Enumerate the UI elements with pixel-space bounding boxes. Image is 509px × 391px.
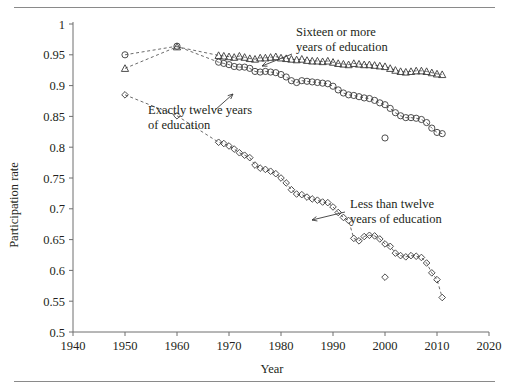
annotation-exactly-twelve-line1: Exactly twelve years	[148, 103, 252, 117]
y-tick-label: 0.5	[49, 326, 65, 340]
data-series	[121, 43, 445, 301]
bottom-divider-rule	[14, 381, 495, 382]
y-tick-label: 0.6	[49, 264, 65, 278]
x-tick-label: 1940	[61, 339, 86, 353]
x-tick-label: 2010	[425, 339, 450, 353]
y-tick-label: 0.65	[43, 233, 65, 247]
x-tick-label: 1980	[269, 339, 294, 353]
annotation-exactly-twelve: Exactly twelve yearsof education	[148, 94, 252, 132]
x-tick-label: 2020	[477, 339, 502, 353]
y-tick-label: 0.85	[43, 110, 65, 124]
annotation-sixteen-or-more-line2: years of education	[296, 40, 388, 54]
data-point-circle	[382, 135, 388, 141]
x-axis-ticks: 194019501960197019801990200020102020	[61, 332, 502, 353]
data-point-diamond	[382, 274, 389, 281]
annotation-sixteen-or-more: Sixteen or moreyears of education	[262, 25, 388, 66]
annotation-less-than-twelve-line2: years of education	[350, 212, 442, 226]
x-axis-title: Year	[260, 362, 284, 376]
annotation-sixteen-or-more-line1: Sixteen or more	[296, 25, 376, 39]
top-divider-rule	[14, 7, 495, 8]
x-tick-label: 1970	[217, 339, 242, 353]
annotation-exactly-twelve-line2: of education	[148, 118, 211, 132]
y-tick-label: 0.8	[49, 141, 65, 155]
x-tick-label: 1990	[321, 339, 346, 353]
annotation-less-than-twelve-line1: Less than twelve	[350, 197, 434, 211]
participation-rate-chart: 0.50.550.60.650.70.750.80.850.90.951 194…	[0, 10, 509, 378]
y-axis-ticks: 0.50.550.60.650.70.750.80.850.90.951	[43, 18, 73, 340]
annotation-less-than-twelve-leader-line	[312, 212, 345, 220]
y-axis-title: Participation rate	[7, 162, 21, 248]
y-tick-label: 0.75	[43, 172, 65, 186]
y-tick-label: 1	[59, 18, 65, 32]
y-tick-label: 0.55	[43, 295, 65, 309]
y-tick-label: 0.95	[43, 48, 65, 62]
chart-canvas: 0.50.550.60.650.70.750.80.850.90.951 194…	[0, 10, 509, 378]
annotation-less-than-twelve: Less than twelveyears of education	[312, 197, 442, 226]
data-point-circle	[387, 105, 393, 111]
x-tick-label: 2000	[373, 339, 398, 353]
data-point-diamond	[215, 139, 222, 146]
x-tick-label: 1960	[165, 339, 190, 353]
x-tick-label: 1950	[113, 339, 138, 353]
y-tick-label: 0.7	[49, 202, 65, 216]
y-tick-label: 0.9	[49, 79, 65, 93]
